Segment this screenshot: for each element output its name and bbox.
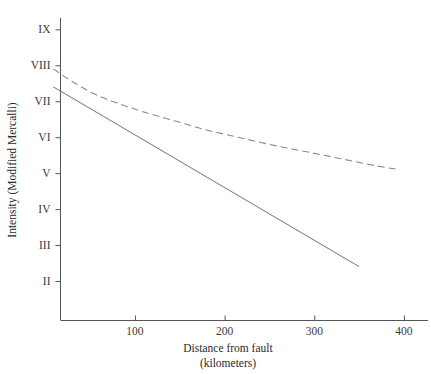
y-tick-label: II bbox=[43, 275, 51, 287]
y-axis-title: Intensity (Modified Mercalli) bbox=[6, 102, 19, 238]
x-tick-label: 100 bbox=[126, 325, 144, 337]
series-attenuation-curve-dashed bbox=[53, 69, 399, 170]
x-axis-title-line1: Distance from fault bbox=[183, 342, 273, 354]
y-tick-label: IV bbox=[38, 203, 51, 215]
x-tick-label: 200 bbox=[216, 325, 234, 337]
x-tick-group: 100200300400 bbox=[126, 316, 413, 337]
y-tick-group: IIIIIIVVVIVIIVIIIIX bbox=[31, 23, 61, 287]
y-tick-label: VIII bbox=[31, 59, 51, 71]
series-attenuation-line-solid bbox=[53, 87, 359, 267]
x-tick-label: 300 bbox=[306, 325, 324, 337]
y-tick-label: IX bbox=[38, 23, 51, 35]
x-tick-label: 400 bbox=[395, 325, 413, 337]
chart-figure: IIIIIIVVVIVIIVIIIIX 100200300400 Distanc… bbox=[0, 0, 431, 374]
chart-plot-area: IIIIIIVVVIVIIVIIIIX 100200300400 Distanc… bbox=[0, 0, 431, 374]
y-tick-label: V bbox=[42, 167, 51, 179]
y-tick-label: III bbox=[39, 239, 51, 251]
y-tick-label: VII bbox=[35, 95, 51, 107]
y-tick-label: VI bbox=[38, 131, 50, 143]
series-group bbox=[53, 69, 399, 267]
x-axis-title-line2: (kilometers) bbox=[200, 357, 256, 370]
